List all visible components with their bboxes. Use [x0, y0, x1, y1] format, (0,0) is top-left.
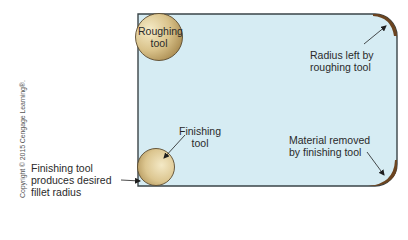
copyright-notice: Copyright © 2015 Cengage Learning®. [19, 80, 26, 198]
label-finishing-tool-line1: Finishing [175, 125, 225, 137]
label-roughing-tool-line2: tool [138, 37, 180, 49]
finishing-tool-icon [138, 149, 175, 186]
label-finishing-tool-line2: tool [175, 137, 225, 149]
label-radius-left-line2: roughing tool [310, 61, 374, 73]
label-roughing-tool: Roughing tool [138, 25, 180, 49]
label-roughing-tool-line1: Roughing [138, 25, 180, 37]
label-finishing-desc-line3: fillet radius [31, 186, 112, 198]
label-material-removed-line2: by finishing tool [289, 146, 370, 158]
label-finishing-desc-line2: produces desired [31, 174, 112, 186]
label-material-removed: Material removed by finishing tool [289, 134, 370, 158]
arrow-finishing-desc [121, 180, 140, 181]
label-material-removed-line1: Material removed [289, 134, 370, 146]
label-finishing-tool: Finishing tool [175, 125, 225, 149]
label-finishing-desc-line1: Finishing tool [31, 162, 112, 174]
label-finishing-desc: Finishing tool produces desired fillet r… [31, 162, 112, 198]
label-radius-left: Radius left by roughing tool [310, 49, 374, 73]
label-radius-left-line1: Radius left by [310, 49, 374, 61]
